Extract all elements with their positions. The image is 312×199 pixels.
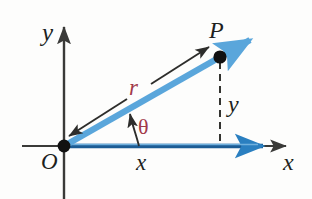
- angle-theta-label: θ: [138, 116, 149, 138]
- y-leg-label: y: [228, 92, 239, 116]
- polar-coordinate-diagram: y x O P r θ x y: [0, 0, 312, 199]
- point-p-label: P: [209, 18, 224, 42]
- origin-dot-icon: [58, 140, 71, 153]
- point-p-dot-icon: [213, 50, 226, 63]
- radius-label: r: [129, 76, 138, 99]
- x-axis-label: x: [283, 150, 294, 174]
- x-axis-blue-segment: [64, 145, 263, 146]
- origin-label: O: [41, 150, 58, 173]
- x-leg-label: x: [136, 151, 146, 174]
- y-axis-label: y: [42, 20, 53, 45]
